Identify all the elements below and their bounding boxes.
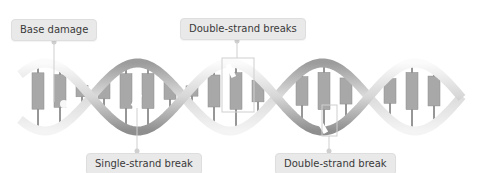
nucleotide-base xyxy=(428,76,440,106)
callout-label: Double-strand break xyxy=(284,158,387,169)
callout-base-damage: Base damage xyxy=(11,19,97,41)
callout-label: Base damage xyxy=(20,24,88,35)
nucleotide-base xyxy=(142,73,154,108)
dna-damage-diagram: Base damage Double-strand breaks Single-… xyxy=(0,0,489,173)
nucleotide-base xyxy=(32,73,44,109)
callout-double-strand-break: Double-strand break xyxy=(275,153,396,173)
single-strand-break-gap xyxy=(131,93,142,108)
nucleotide-base xyxy=(208,75,220,107)
callout-label: Single-strand break xyxy=(95,158,193,169)
base-damage-marker xyxy=(60,100,68,108)
nucleotide-base xyxy=(406,72,418,109)
nucleotide-base xyxy=(296,77,308,106)
nucleotide-base xyxy=(230,73,242,110)
callout-single-strand-break: Single-strand break xyxy=(86,153,202,173)
callout-double-strand-breaks: Double-strand breaks xyxy=(180,18,306,40)
callout-label: Double-strand breaks xyxy=(189,23,297,34)
nucleotide-base xyxy=(120,74,132,109)
nucleotide-base xyxy=(318,72,330,109)
